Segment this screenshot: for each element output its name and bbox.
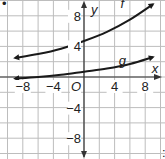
y-tick-label: −8 (66, 131, 81, 146)
colon-mark: : (162, 145, 165, 159)
function-graph: −8−44884−4−8Oyxfg•: (0, 0, 165, 159)
x-tick-label: −4 (46, 79, 61, 94)
y-tick-label: 8 (74, 9, 81, 24)
x-tick-label: −8 (15, 79, 30, 94)
series-label-g: g (119, 53, 127, 68)
y-tick-label: −4 (66, 101, 81, 116)
x-tick-label: 4 (111, 79, 118, 94)
bullet-mark: • (2, 0, 7, 11)
y-axis-arrow-up-icon (81, 1, 87, 8)
y-axis-arrow-down-icon (81, 151, 87, 158)
x-axis-label: x (151, 61, 159, 76)
y-tick-label: 4 (74, 39, 81, 54)
x-tick-label: 8 (142, 79, 149, 94)
curve-f-arrow-left-icon (13, 54, 19, 60)
series-label-f: f (120, 0, 125, 11)
y-axis-label: y (90, 2, 99, 17)
origin-label: O (71, 79, 81, 94)
